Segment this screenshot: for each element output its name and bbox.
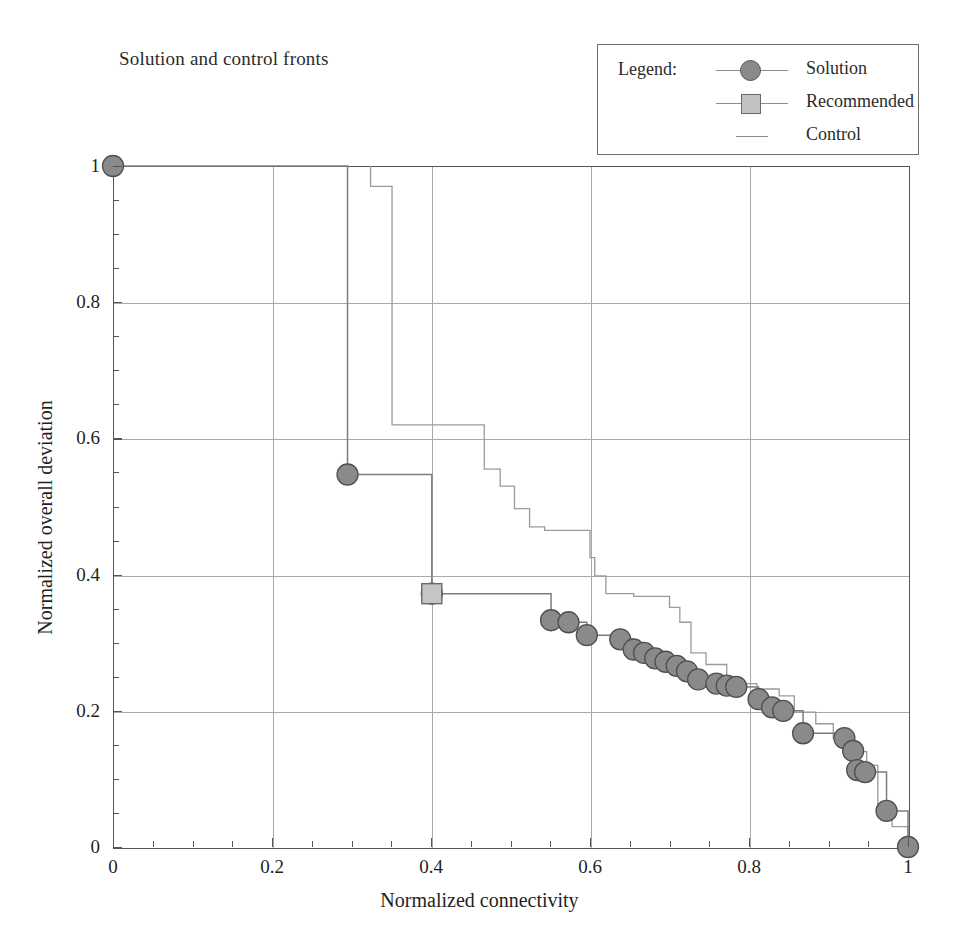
x-tick-minor [709, 841, 710, 847]
y-tick-minor [113, 370, 119, 371]
x-tick-label: 0.8 [737, 856, 761, 878]
solution-point-marker[interactable] [855, 762, 876, 783]
legend-marker-control [716, 123, 788, 151]
x-tick-major [272, 838, 273, 847]
legend-label-recommended: Recommended [806, 91, 914, 112]
y-tick-label: 0.4 [14, 564, 100, 586]
x-tick-minor [312, 841, 313, 847]
solution-point-marker[interactable] [793, 723, 814, 744]
solution-point-marker[interactable] [688, 669, 709, 690]
x-tick-major [431, 838, 432, 847]
solution-point-marker[interactable] [576, 625, 597, 646]
y-tick-major [113, 438, 122, 439]
y-tick-major [113, 711, 122, 712]
legend: Legend: Solution Recommended Control [597, 44, 919, 155]
solution-point-marker[interactable] [726, 676, 747, 697]
solution-point-marker[interactable] [876, 800, 897, 821]
y-tick-minor [113, 404, 119, 405]
solution-front-line [113, 166, 908, 847]
y-tick-major [113, 847, 122, 848]
x-tick-minor [391, 841, 392, 847]
x-tick-minor [829, 841, 830, 847]
x-tick-major [590, 838, 591, 847]
x-tick-minor [471, 841, 472, 847]
x-tick-minor [511, 841, 512, 847]
x-tick-label: 0.2 [260, 856, 284, 878]
y-tick-minor [113, 779, 119, 780]
x-tick-minor [670, 841, 671, 847]
x-tick-minor [352, 841, 353, 847]
y-tick-minor [113, 609, 119, 610]
y-tick-major [113, 166, 122, 167]
solution-point-marker[interactable] [843, 740, 864, 761]
chart-root: Solution and control fronts Legend: Solu… [0, 0, 959, 945]
y-tick-minor [113, 813, 119, 814]
y-tick-minor [113, 472, 119, 473]
control-front-line [371, 166, 908, 847]
x-tick-major [113, 838, 114, 847]
solution-point-marker[interactable] [558, 612, 579, 633]
y-tick-label: 1 [14, 155, 100, 177]
y-tick-minor [113, 200, 119, 201]
x-tick-major [749, 838, 750, 847]
y-tick-label: 0 [14, 836, 100, 858]
data-series-layer [113, 166, 908, 847]
y-tick-minor [113, 541, 119, 542]
y-tick-minor [113, 268, 119, 269]
y-tick-label: 0.8 [14, 291, 100, 313]
y-tick-minor [113, 507, 119, 508]
x-tick-minor [550, 841, 551, 847]
x-tick-label: 0.6 [578, 856, 602, 878]
y-tick-minor [113, 745, 119, 746]
chart-title: Solution and control fronts [119, 48, 329, 70]
x-tick-minor [789, 841, 790, 847]
y-tick-minor [113, 234, 119, 235]
y-tick-minor [113, 336, 119, 337]
y-tick-label: 0.6 [14, 427, 100, 449]
y-tick-major [113, 302, 122, 303]
x-tick-label: 0.4 [419, 856, 443, 878]
x-tick-minor [153, 841, 154, 847]
legend-marker-recommended [716, 90, 788, 118]
x-tick-minor [630, 841, 631, 847]
x-axis-title: Normalized connectivity [0, 889, 959, 912]
x-tick-minor [232, 841, 233, 847]
y-axis-title: Normalized overall deviation [34, 208, 57, 828]
x-tick-label: 1 [903, 856, 913, 878]
y-tick-major [113, 575, 122, 576]
legend-label-control: Control [806, 124, 861, 145]
recommended-point-marker[interactable] [422, 584, 442, 604]
solution-point-marker[interactable] [337, 464, 358, 485]
y-tick-minor [113, 643, 119, 644]
y-tick-minor [113, 677, 119, 678]
y-tick-label: 0.2 [14, 700, 100, 722]
x-tick-label: 0 [108, 856, 118, 878]
x-tick-major [908, 838, 909, 847]
solution-point-marker[interactable] [773, 700, 794, 721]
legend-label-solution: Solution [806, 58, 867, 79]
legend-heading: Legend: [618, 59, 677, 80]
x-tick-minor [193, 841, 194, 847]
legend-marker-solution [716, 57, 788, 85]
x-tick-minor [868, 841, 869, 847]
